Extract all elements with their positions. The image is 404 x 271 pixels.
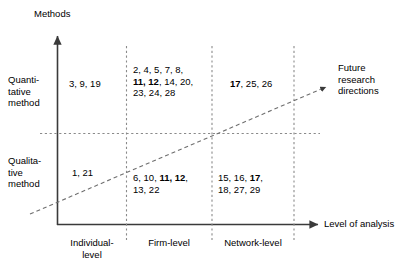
bold-reference-number: 11, 12 — [159, 172, 185, 183]
reference-number: 1, 21 — [72, 167, 93, 178]
bold-reference-number: 11, 12 — [133, 76, 159, 87]
row-label-quantitative: Quanti- tative method — [8, 74, 40, 109]
row-label-qualitative: Qualita- tive method — [8, 155, 41, 190]
future-research-directions-label: Future research directions — [338, 62, 379, 97]
cell-qualitative-network: 15, 16, 17, 18, 27, 29 — [218, 172, 294, 195]
reference-number: 6, 10, — [133, 172, 159, 183]
x-axis-title: Level of analysis — [324, 218, 394, 230]
reference-number: 3, 9, 19 — [69, 78, 101, 89]
cell-quantitative-firm: 2, 4, 5, 7, 8, 11, 12, 14, 20, 23, 24, 2… — [133, 64, 213, 99]
cell-qualitative-firm: 6, 10, 11, 12, 13, 22 — [133, 172, 215, 195]
reference-number: , 25, 26 — [241, 78, 273, 89]
bold-reference-number: 17 — [230, 78, 241, 89]
figure-container: Methods Level of analysis Future researc… — [0, 0, 404, 271]
y-axis-title: Methods — [34, 8, 70, 20]
column-label-individual-level: Individual- level — [60, 237, 124, 260]
reference-number: 2, 4, 5, 7, 8, — [133, 64, 183, 75]
cell-quantitative-network: 17, 25, 26 — [230, 78, 296, 90]
column-label-firm-level: Firm-level — [130, 237, 208, 249]
cell-quantitative-individual: 3, 9, 19 — [69, 78, 125, 90]
bold-reference-number: 17 — [250, 172, 261, 183]
diagram-graphics — [0, 0, 404, 271]
cell-qualitative-individual: 1, 21 — [72, 167, 128, 179]
reference-number: 15, 16, — [218, 172, 250, 183]
column-label-network-level: Network-level — [213, 237, 293, 249]
